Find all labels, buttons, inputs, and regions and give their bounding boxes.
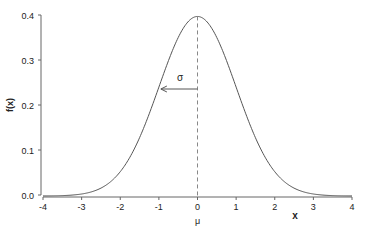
x-tick-label: -4 [39,202,47,212]
x-tick-label: -3 [78,202,86,212]
x-tick-label: 4 [349,202,354,212]
x-tick-label: -2 [116,202,124,212]
density-curve [43,16,352,195]
mu-label: μ [195,216,200,226]
y-axis-label: f(x) [5,98,15,112]
x-tick-label: 3 [311,202,316,212]
x-tick-label: -1 [155,202,163,212]
sigma-arrow [161,86,198,92]
x-tick-label: 1 [234,202,239,212]
normal-distribution-chart: 0.00.10.20.30.4-4-3-2-101234 σ μ x f(x) [0,0,368,235]
y-tick-label: 0.3 [21,56,34,66]
y-tick-label: 0.0 [21,191,34,201]
y-tick-label: 0.2 [21,101,34,111]
x-tick-label: 0 [195,202,200,212]
x-axis-label: x [292,210,298,221]
axes: 0.00.10.20.30.4-4-3-2-101234 [21,11,354,213]
y-tick-label: 0.4 [21,11,34,21]
sigma-label: σ [177,72,184,83]
x-tick-label: 2 [272,202,277,212]
y-tick-label: 0.1 [21,146,34,156]
